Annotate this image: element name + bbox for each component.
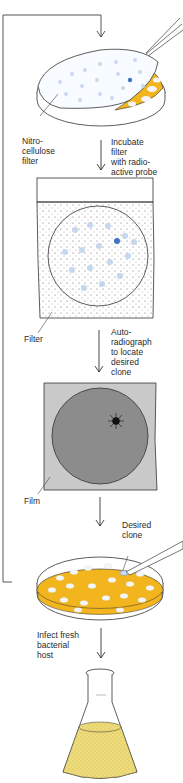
- positive-clone-spot: [128, 78, 132, 82]
- filter-sheet: [37, 178, 154, 333]
- label-step-infect: Infect fresh bacterial host: [37, 630, 79, 660]
- petri-dish-with-filter: [37, 18, 183, 126]
- label-step-incubate: Incubate filter with radio- active probe: [111, 137, 157, 177]
- filter-positive-spot: [114, 238, 120, 244]
- master-plate: [37, 541, 183, 620]
- label-step-autoradiograph: Auto- radiograph to locate desired clone: [111, 327, 152, 377]
- label-film: Film: [24, 496, 40, 506]
- autoradiograph-film: [38, 383, 157, 494]
- screening-diagram: [0, 0, 183, 783]
- label-filter: Filter: [24, 334, 43, 344]
- label-desired-clone: Desired clone: [122, 520, 151, 540]
- exposure-spot-icon: [108, 413, 124, 429]
- forceps-icon: [146, 18, 183, 56]
- culture-flask-icon: [63, 669, 137, 779]
- label-nitrocellulose-filter: Nitro- cellulose filter: [22, 136, 55, 166]
